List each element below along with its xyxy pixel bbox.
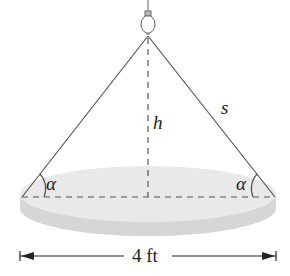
height-label: h bbox=[153, 113, 163, 132]
slant-label: s bbox=[221, 98, 228, 117]
width-label: 4 ft bbox=[128, 246, 162, 265]
diagram-graphic bbox=[0, 0, 290, 276]
lamp-diagram: h s α α 4 ft bbox=[0, 0, 290, 276]
right-angle-label: α bbox=[236, 174, 246, 193]
left-angle-label: α bbox=[46, 174, 56, 193]
light-bulb-icon bbox=[141, 0, 155, 34]
